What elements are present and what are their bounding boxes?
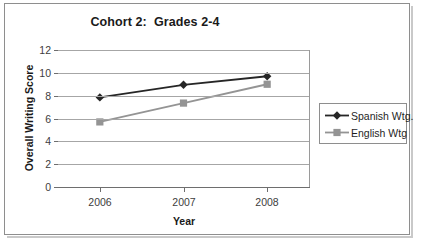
y-tick-label-wrap: 10 xyxy=(5,68,51,78)
gridline xyxy=(58,119,309,120)
gridline xyxy=(58,141,309,142)
gridline xyxy=(58,50,309,51)
data-point-marker xyxy=(96,93,104,101)
x-tick-mark xyxy=(267,188,268,192)
chart-outer-frame: Cohort 2: Grades 2-4 Overall Writing Sco… xyxy=(4,3,410,235)
y-tick-label: 8 xyxy=(9,91,51,101)
legend-label: Spanish Wtg. xyxy=(351,110,413,122)
y-tick-label-wrap: 8 xyxy=(5,91,51,101)
y-tick-label-wrap: 6 xyxy=(5,114,51,124)
x-tick-label: 2007 xyxy=(154,196,214,208)
data-point-marker xyxy=(180,99,187,106)
legend-label: English Wtg xyxy=(351,127,407,139)
gridline xyxy=(58,96,309,97)
screenshot-root: Cohort 2: Grades 2-4 Overall Writing Sco… xyxy=(0,0,427,246)
y-tick-label: 4 xyxy=(9,136,51,146)
y-tick-label-wrap: 0 xyxy=(5,182,51,192)
gridline xyxy=(58,73,309,74)
legend-swatch-diamond-icon xyxy=(324,107,350,124)
chart-legend: Spanish Wtg.English Wtg xyxy=(319,103,407,144)
x-tick-mark xyxy=(184,188,185,192)
data-point-marker xyxy=(179,81,187,89)
legend-item-2[interactable]: English Wtg xyxy=(320,124,408,141)
legend-swatch-square-icon xyxy=(324,124,350,141)
legend-item-1[interactable]: Spanish Wtg. xyxy=(320,107,408,124)
y-tick-label: 2 xyxy=(9,159,51,169)
y-tick-label-wrap: 4 xyxy=(5,136,51,146)
y-tick-label: 6 xyxy=(9,114,51,124)
y-tick-label: 0 xyxy=(9,182,51,192)
x-axis-title: Year xyxy=(58,215,310,227)
gridline xyxy=(58,164,309,165)
frame-drop-shadow-bottom xyxy=(7,236,413,238)
y-tick-label: 10 xyxy=(9,68,51,78)
data-point-marker xyxy=(264,81,271,88)
x-tick-mark xyxy=(100,188,101,192)
series-1 xyxy=(96,72,272,102)
y-tick-label-wrap: 2 xyxy=(5,159,51,169)
plot-area xyxy=(58,50,310,187)
line-chart: Cohort 2: Grades 2-4 Overall Writing Sco… xyxy=(5,4,411,236)
y-tick-label: 12 xyxy=(9,45,51,55)
chart-title: Cohort 2: Grades 2-4 xyxy=(5,15,305,29)
y-tick-label-wrap: 12 xyxy=(5,45,51,55)
x-tick-label: 2008 xyxy=(237,196,297,208)
x-tick-label: 2006 xyxy=(70,196,130,208)
